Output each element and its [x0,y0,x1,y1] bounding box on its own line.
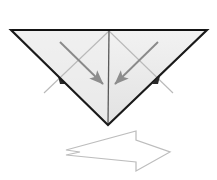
next-step-arrow-group [66,131,170,171]
origami-figure-canvas [0,0,217,180]
origami-diagram: Origami fold step diagram Fold left flap… [0,0,217,180]
next-step-arrow [66,131,170,171]
paper-group [11,30,207,125]
